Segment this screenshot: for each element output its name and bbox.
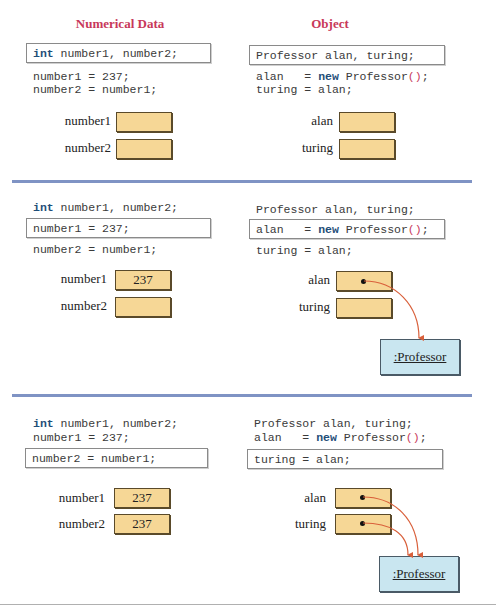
- arrow-alan-to-object: [363, 497, 418, 555]
- reference-arrows: [0, 0, 496, 608]
- bottom-rule: [0, 604, 496, 605]
- arrow-turing-to-object: [363, 523, 408, 555]
- arrow-alan-to-object: [364, 281, 419, 338]
